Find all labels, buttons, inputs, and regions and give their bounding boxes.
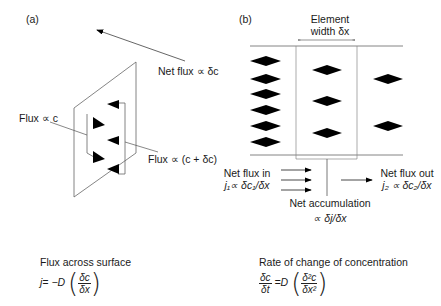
surface-plane — [74, 62, 136, 197]
flux-triangle — [93, 151, 105, 163]
double-arrows-right — [373, 74, 403, 131]
double-arrows-middle — [312, 65, 342, 138]
flux-fraction: δcδx — [78, 272, 91, 295]
flux-triangle — [107, 100, 119, 109]
net-flux-out-label: Net flux out j₂ ∝ δc₂/δx — [374, 167, 440, 191]
panel-a-drawing — [50, 30, 185, 197]
flux-equation: j= −D (δcδx) — [40, 270, 101, 296]
flux-equation-title: Flux across surface — [40, 256, 131, 268]
flux-triangle — [93, 117, 105, 129]
flux-c-dc-label: Flux ∝ (c + δc) — [148, 153, 217, 165]
panel-b-label: (b) — [239, 13, 252, 25]
panel-a-label: (a) — [26, 13, 39, 25]
flux-c-dc-leader — [125, 142, 158, 152]
net-flux-arrow — [97, 30, 185, 61]
rate-equation-title: Rate of change of concentration — [259, 256, 408, 268]
double-arrows-left — [250, 56, 281, 147]
rate-lhs-fraction: δcδt — [259, 272, 272, 295]
rate-rhs-fraction: δ²cδx² — [301, 272, 317, 295]
net-flux-label: Net flux ∝ δc — [158, 65, 219, 77]
flux-triangle — [107, 136, 119, 145]
flux-c-label: Flux ∝ c — [19, 112, 58, 124]
element-width-label: Element width δx — [300, 13, 360, 37]
net-flux-in-label: Net flux in j₁∝ δc₁/δx — [214, 167, 280, 191]
rate-equation: δcδt =D (δ²cδx²) — [259, 270, 327, 296]
net-accumulation-label: Net accumulation ∝ δj/δx — [280, 196, 380, 226]
